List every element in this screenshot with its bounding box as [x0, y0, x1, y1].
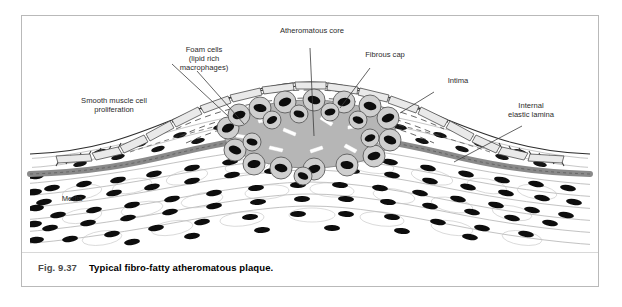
label-media-line1: Media [52, 194, 92, 203]
label-fibrous-cap-line1: Fibrous cap [352, 50, 418, 59]
label-iel-line2: elastic lamina [494, 110, 568, 119]
label-media: Media [52, 194, 92, 203]
illustration-canvas [22, 16, 598, 252]
label-foam-cells-line1: Foam cells [166, 45, 242, 54]
label-iel-line1: Internal [494, 101, 568, 110]
vessel-wall-group [22, 48, 598, 248]
label-foam-cells-line3: macrophages) [166, 63, 242, 72]
figure-caption: Fig. 9.37Typical fibro-fatty atheromatou… [38, 262, 273, 273]
figure-root: Foam cells (lipid rich macrophages) Athe… [0, 0, 622, 307]
label-internal-elastic-lamina: Internal elastic lamina [494, 101, 568, 119]
label-intima-line1: Intima [437, 76, 479, 85]
label-foam-cells-line2: (lipid rich [166, 54, 242, 63]
label-atheromatous-core-line1: Atheromatous core [257, 26, 367, 35]
caption-divider [22, 252, 598, 253]
figure-caption-text: Typical fibro-fatty atheromatous plaque. [89, 262, 273, 273]
label-smc-line1: Smooth muscle cell [62, 96, 166, 105]
label-foam-cells: Foam cells (lipid rich macrophages) [166, 45, 242, 73]
label-intima: Intima [437, 76, 479, 85]
label-atheromatous-core: Atheromatous core [257, 26, 367, 35]
label-fibrous-cap: Fibrous cap [352, 50, 418, 59]
figure-number: Fig. 9.37 [38, 262, 77, 273]
label-smooth-muscle-proliferation: Smooth muscle cell proliferation [62, 96, 166, 114]
label-smc-line2: proliferation [62, 105, 166, 114]
